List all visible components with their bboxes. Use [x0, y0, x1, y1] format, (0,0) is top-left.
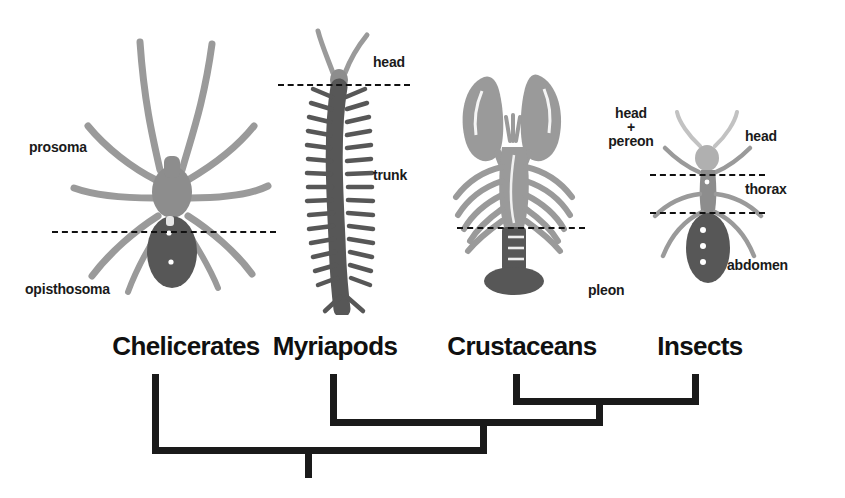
- clado-connector-crustaceans-insects: [596, 398, 603, 426]
- clado-branch-chelicerates: [152, 374, 159, 454]
- clado-root-stem: [305, 447, 312, 478]
- clado-connector-mandibulata: [480, 419, 487, 454]
- clado-node-mandibulata-bar: [330, 419, 603, 426]
- clado-node-crustaceans-insects-bar: [513, 398, 699, 405]
- cladogram: [0, 0, 845, 498]
- clado-branch-myriapods: [330, 374, 337, 425]
- arthropod-phylogeny-figure: prosoma opisthosoma: [0, 0, 845, 498]
- clado-node-arthropoda-bar: [152, 447, 487, 454]
